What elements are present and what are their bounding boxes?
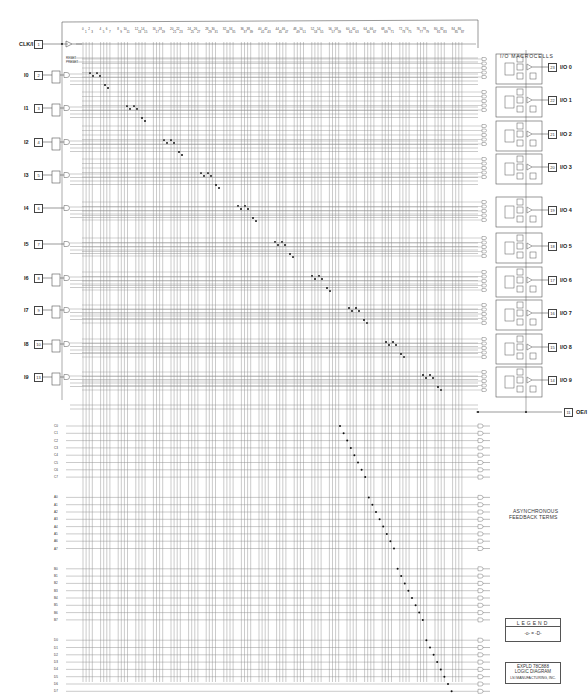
output-buffer-icon: [527, 131, 532, 137]
output-buffer-icon: [527, 207, 532, 213]
output-pin: 15: [548, 343, 557, 352]
and-gate-icon: [482, 109, 487, 112]
term-row-label: A5: [54, 532, 58, 536]
and-gate-icon: [482, 210, 487, 213]
input-buffer-icon: [64, 242, 70, 247]
fuse-dot: [348, 307, 350, 309]
fuse-dot: [389, 540, 391, 542]
mux-icon: [517, 199, 523, 205]
fuse-dot: [385, 341, 387, 343]
diagram-subtitle: LOGIC DIAGRAM: [506, 669, 560, 674]
and-gate-icon: [482, 275, 487, 278]
fuse-dot: [136, 108, 138, 110]
input-buffer-icon: [64, 173, 70, 178]
mux-icon: [517, 277, 523, 283]
mux-icon: [517, 140, 523, 146]
term-row-label: A6: [54, 539, 58, 543]
column-number: 7: [109, 30, 111, 34]
output-buffer-icon: [527, 243, 532, 249]
and-gate-icon: [478, 596, 483, 600]
and-gate-icon: [482, 304, 487, 307]
and-gate-icon: [482, 356, 487, 359]
and-gate-icon: [478, 574, 483, 578]
column-number: 23: [179, 30, 183, 34]
fuse-dot: [429, 647, 431, 649]
term-row-label: D5: [54, 675, 58, 679]
and-gate-icon: [478, 431, 483, 435]
term-row-label: D6: [54, 682, 58, 686]
fuse-dot: [422, 619, 424, 621]
legend-symbol: -o- = -D-: [506, 631, 560, 636]
column-number: 9: [120, 30, 122, 34]
column-number: 63: [355, 30, 359, 34]
term-row-label: C7: [54, 475, 58, 479]
output-buffer-icon: [527, 277, 532, 283]
and-gate-icon: [482, 205, 487, 208]
column-number: 27: [197, 30, 201, 34]
output-label: I/O 3: [560, 164, 572, 170]
clock-input-label: CLK/I: [19, 41, 33, 47]
term-row-label: B2: [54, 581, 58, 585]
feedback-mux-icon: [530, 353, 536, 359]
and-gate-icon: [482, 313, 487, 316]
input-pin: 4: [34, 138, 43, 147]
mux-icon: [517, 164, 523, 170]
input-label: I8: [24, 341, 29, 347]
fuse-dot: [404, 582, 406, 584]
and-gate-icon: [482, 219, 487, 222]
column-number: 0: [82, 27, 84, 31]
and-gate-icon: [482, 201, 487, 204]
and-gate-icon: [482, 95, 487, 98]
fuse-dot: [277, 244, 279, 246]
term-row-label: D7: [54, 689, 58, 693]
and-gate-icon: [478, 547, 483, 551]
fuse-dot: [353, 454, 355, 456]
term-row-label: C6: [54, 468, 58, 472]
feedback-mux-icon: [530, 386, 536, 392]
logic-diagram: 0123456789101112131415161718192021222324…: [0, 0, 588, 695]
input-label: I4: [24, 205, 29, 211]
input-pin: 7: [34, 240, 43, 249]
and-gate-icon: [478, 475, 483, 479]
column-number: 31: [215, 30, 219, 34]
fuse-dot: [411, 597, 413, 599]
term-row-label: D3: [54, 660, 58, 664]
mux-icon: [517, 386, 523, 392]
fuse-dot: [129, 108, 131, 110]
term-row-label: C2: [54, 439, 58, 443]
mux-icon: [517, 64, 523, 70]
fuse-dot: [355, 307, 357, 309]
output-label: I/O 0: [560, 64, 572, 70]
fuse-dot: [339, 425, 341, 427]
and-gate-icon: [482, 167, 487, 170]
term-row-label: B6: [54, 611, 58, 615]
and-gate-icon: [478, 618, 483, 622]
and-gate-icon: [482, 371, 487, 374]
fuse-dot: [451, 690, 453, 692]
and-gate-icon: [478, 453, 483, 457]
fuse-dot: [407, 590, 409, 592]
and-gate-icon: [478, 667, 483, 671]
junction-dot: [477, 411, 479, 413]
and-gate-icon: [482, 308, 487, 311]
manufacturer: LSI MANUFACTURING, INC.: [506, 676, 560, 680]
term-row-label: C5: [54, 461, 58, 465]
and-gate-icon: [478, 539, 483, 543]
fuse-dot: [318, 275, 320, 277]
and-gate-icon: [482, 389, 487, 392]
fuse-dot: [425, 377, 427, 379]
input-buffer-icon: [64, 106, 70, 111]
output-pin: 14: [548, 376, 557, 385]
fuse-dot: [218, 187, 220, 189]
column-number: 2: [88, 27, 90, 31]
input-latch-icon: [52, 104, 60, 116]
fuse-dot: [107, 87, 109, 89]
term-row-label: A3: [54, 517, 58, 521]
async-feedback-label-2: FEEDBACK TERMS: [509, 514, 558, 520]
mux-icon: [517, 123, 523, 129]
input-buffer-icon: [64, 308, 70, 313]
and-gate-icon: [478, 503, 483, 507]
term-row-label: C1: [54, 431, 58, 435]
input-pin: 8: [34, 274, 43, 283]
fuse-dot: [343, 432, 345, 434]
